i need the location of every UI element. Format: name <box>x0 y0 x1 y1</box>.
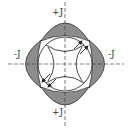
polarization-diagram: +J +J -J -J <box>0 0 131 132</box>
diagram-canvas <box>0 0 131 132</box>
label-top: +J <box>52 8 63 17</box>
label-right: -J <box>108 50 115 59</box>
label-bottom: +J <box>52 108 63 117</box>
label-left: -J <box>14 50 21 59</box>
